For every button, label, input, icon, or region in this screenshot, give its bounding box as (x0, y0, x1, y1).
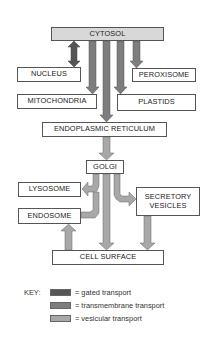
key-row-transmembrane: = transmembrane transport (24, 300, 164, 310)
er-box: ENDOPLASMIC RETICULUM (42, 122, 167, 137)
transmembrane-arrow-cytosol-peroxisome (130, 41, 143, 68)
lysosome-box: LYSOSOME (18, 182, 81, 197)
vesicular-swatch (50, 315, 71, 322)
secretory-vesicles-box: SECRETORY VESICLES (136, 187, 200, 216)
plastids-box: PLASTIDS (117, 94, 196, 111)
golgi-box: GOLGI (86, 160, 124, 174)
transmembrane-arrow-cytosol-plastids (114, 41, 127, 94)
nucleus-box: NUCLEUS (17, 67, 81, 82)
vesicular-arrow-endosome-lysosome (81, 192, 99, 218)
vesicular-arrow-golgi-secretory (114, 174, 136, 206)
vesicular-arrow-cellsurface-endosome (61, 224, 76, 250)
key-row-vesicular: = vesicular transport (24, 313, 142, 323)
key-title: KEY: (24, 288, 50, 297)
key-label-transmembrane: = transmembrane transport (75, 301, 164, 310)
vesicular-arrow-golgi-cellsurface (99, 174, 114, 250)
key-row-gated: KEY: = gated transport (24, 287, 131, 297)
protein-sorting-diagram: CYTOSOL NUCLEUS PEROXISOME MITOCHONDRIA … (0, 0, 213, 344)
gated-arrow-cytosol-nucleus (68, 41, 80, 67)
vesicular-arrow-er-golgi (99, 137, 114, 160)
transmembrane-arrow-cytosol-er (100, 41, 113, 122)
cytosol-box: CYTOSOL (51, 27, 164, 41)
peroxisome-box: PEROXISOME (132, 68, 196, 82)
gated-swatch (50, 289, 71, 296)
endosome-box: ENDOSOME (18, 208, 81, 224)
transmembrane-swatch (50, 302, 71, 309)
key-label-gated: = gated transport (75, 288, 131, 297)
cell-surface-box: CELL SURFACE (52, 250, 164, 265)
transmembrane-arrow-cytosol-mitochondria (86, 41, 99, 94)
key-label-vesicular: = vesicular transport (75, 314, 142, 323)
mitochondria-box: MITOCHONDRIA (17, 94, 97, 109)
vesicular-arrow-secretory-cellsurface (140, 216, 155, 250)
